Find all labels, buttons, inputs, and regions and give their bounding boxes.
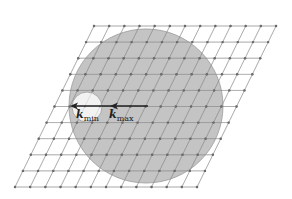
lattice-diagram: kmin kmax [0,0,292,199]
